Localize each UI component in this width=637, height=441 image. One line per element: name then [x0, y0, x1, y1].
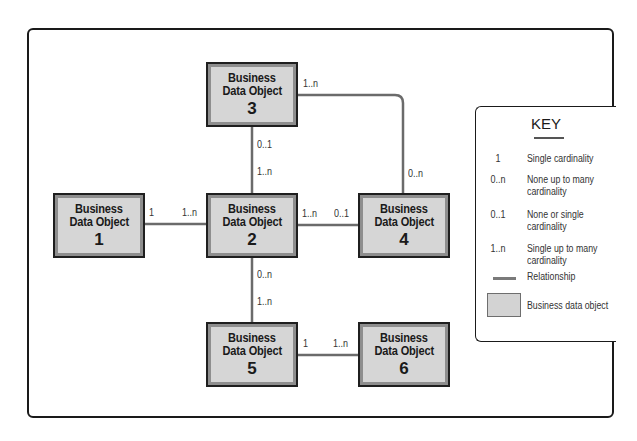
key-symbol: 0..1: [478, 209, 518, 220]
object-number: 4: [399, 230, 408, 249]
object-label-line2: Data Object: [222, 345, 281, 358]
key-title-underline: [534, 137, 564, 139]
relationship-line-icon: [493, 277, 516, 280]
cardinality-label: 1..n: [303, 78, 318, 89]
cardinality-label: 1..n: [302, 208, 317, 219]
business-data-object-1[interactable]: Business Data Object 1: [53, 193, 145, 258]
business-object-swatch-icon: [487, 293, 521, 317]
object-number: 1: [94, 230, 103, 249]
key-description-line1: None up to many: [527, 174, 594, 185]
key-description: Business data object: [527, 300, 606, 312]
key-title: KEY: [476, 115, 616, 132]
cardinality-label: 0..1: [257, 139, 272, 150]
business-data-object-3[interactable]: Business Data Object 3: [206, 62, 298, 127]
object-number: 5: [247, 359, 256, 378]
key-symbol: 1: [478, 153, 518, 164]
relationship-3-4: [297, 95, 403, 193]
key-description: None up to many cardinality: [527, 174, 606, 198]
key-description-line2: cardinality: [527, 186, 567, 197]
key-symbol: 1..n: [478, 243, 518, 254]
cardinality-label: 0..n: [257, 269, 272, 280]
cardinality-label: 0..1: [334, 208, 349, 219]
object-label-line2: Data Object: [222, 216, 281, 229]
key-description-line1: None or single: [527, 209, 584, 220]
key-description-line2: cardinality: [527, 255, 567, 266]
object-label-line2: Data Object: [222, 85, 281, 98]
object-label-line2: Data Object: [374, 345, 433, 358]
business-data-object-2[interactable]: Business Data Object 2: [206, 193, 298, 258]
key-description-line1: Single up to many: [527, 243, 597, 254]
object-label-line2: Data Object: [374, 216, 433, 229]
cardinality-label: 1: [149, 207, 154, 218]
cardinality-label: 1..n: [257, 296, 272, 307]
key-legend: KEY 1 Single cardinality 0..n None up to…: [475, 106, 616, 342]
cardinality-label: 1..n: [182, 207, 197, 218]
object-number: 2: [247, 230, 256, 249]
cardinality-label: 0..n: [408, 168, 423, 179]
key-description: None or single cardinality: [527, 209, 606, 233]
cardinality-label: 1: [303, 338, 308, 349]
object-number: 6: [399, 359, 408, 378]
object-number: 3: [247, 99, 256, 118]
key-description-line2: cardinality: [527, 221, 567, 232]
key-symbol: 0..n: [478, 174, 518, 185]
business-data-object-4[interactable]: Business Data Object 4: [358, 193, 450, 258]
business-data-object-6[interactable]: Business Data Object 6: [358, 322, 450, 387]
cardinality-label: 1..n: [333, 338, 348, 349]
key-description: Single up to many cardinality: [527, 243, 606, 267]
business-data-object-5[interactable]: Business Data Object 5: [206, 322, 298, 387]
object-label-line2: Data Object: [69, 216, 128, 229]
cardinality-label: 1..n: [257, 166, 272, 177]
key-description: Single cardinality: [527, 153, 606, 165]
key-description: Relationship: [527, 271, 606, 283]
